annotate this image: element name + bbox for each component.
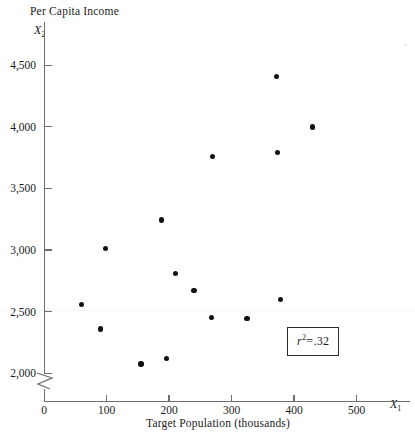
scatter-point xyxy=(274,74,279,79)
scatter-point xyxy=(79,302,84,307)
scatter-point xyxy=(173,271,178,276)
r-squared-value: .32 xyxy=(313,334,329,348)
scatter-point xyxy=(191,288,196,293)
scatter-point xyxy=(209,315,214,320)
scatter-point xyxy=(159,217,164,222)
r-squared-annotation: r2=.32 xyxy=(287,327,339,356)
scatter-plot-figure: Per Capita Income X2 X1 Target Populatio… xyxy=(0,0,415,437)
scatter-point xyxy=(275,150,280,155)
scatter-point xyxy=(278,297,283,302)
scatter-point xyxy=(164,356,169,361)
scatter-point xyxy=(98,326,103,331)
scatter-point xyxy=(210,154,215,159)
scatter-points-layer xyxy=(0,0,415,437)
scatter-point xyxy=(103,246,108,251)
scatter-point xyxy=(310,124,315,129)
scatter-point xyxy=(138,361,143,366)
scatter-point xyxy=(244,316,249,321)
